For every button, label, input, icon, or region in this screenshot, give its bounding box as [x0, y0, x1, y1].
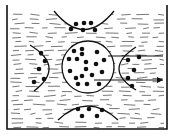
- molecule: [95, 50, 100, 55]
- molecule: [126, 58, 131, 63]
- liquid-dash: [10, 82, 21, 83]
- liquid-dash: [57, 104, 67, 105]
- liquid-dash: [119, 91, 131, 92]
- liquid-dash: [29, 41, 34, 42]
- molecule: [72, 49, 77, 54]
- liquid-dash: [140, 122, 148, 123]
- molecule: [97, 82, 102, 87]
- liquid-dash: [65, 33, 78, 34]
- liquid-dash: [116, 78, 127, 79]
- liquid-dash: [106, 104, 112, 105]
- molecule: [76, 107, 81, 112]
- molecule: [95, 114, 100, 119]
- liquid-dash: [12, 19, 18, 20]
- molecule: [94, 62, 99, 67]
- liquid-dash: [158, 95, 164, 96]
- liquid-dash: [46, 19, 57, 20]
- liquid-dash: [104, 28, 113, 29]
- liquid-dash: [137, 77, 148, 78]
- molecule: [42, 77, 47, 82]
- molecule-groups: [30, 11, 141, 120]
- molecule: [84, 60, 89, 65]
- molecule: [90, 73, 95, 78]
- liquid-dash: [125, 28, 136, 29]
- molecule: [69, 27, 74, 32]
- liquid-dash: [151, 114, 162, 115]
- surface-group-arc: [54, 11, 114, 30]
- liquid-dash: [25, 50, 34, 51]
- molecule: [130, 84, 135, 89]
- liquid-dash: [33, 104, 46, 105]
- liquid-dash: [14, 23, 24, 24]
- liquid-dash: [72, 104, 79, 105]
- liquid-dash: [53, 73, 63, 74]
- liquid-dash: [130, 118, 142, 119]
- molecule: [67, 57, 72, 62]
- liquid-dash: [11, 100, 18, 101]
- liquid-dash: [119, 118, 125, 119]
- liquid-dash: [111, 37, 119, 38]
- liquid-dash: [129, 109, 140, 110]
- liquid-dash: [159, 59, 164, 60]
- liquid-dash: [117, 113, 129, 114]
- liquid-dash: [158, 14, 164, 15]
- molecule: [87, 107, 92, 112]
- molecule: [100, 70, 105, 75]
- liquid-dash: [138, 50, 145, 51]
- liquid-dash: [54, 122, 63, 123]
- liquid-dash: [13, 33, 21, 34]
- molecule: [74, 76, 79, 81]
- liquid-dash: [126, 33, 132, 34]
- liquid-dash: [24, 109, 31, 110]
- molecule: [84, 67, 89, 72]
- liquid-dash: [140, 86, 151, 87]
- molecule: [137, 55, 142, 60]
- liquid-dash: [93, 127, 99, 128]
- liquid-dash: [60, 100, 71, 101]
- liquid-dash: [30, 14, 39, 15]
- liquid-dash: [12, 86, 19, 87]
- liquid-dash: [14, 64, 22, 65]
- liquid-dash: [106, 41, 113, 42]
- molecule: [76, 82, 81, 87]
- liquid-dash: [16, 91, 22, 92]
- liquid-dash: [29, 32, 37, 33]
- molecule: [37, 67, 42, 72]
- molecule: [82, 21, 87, 26]
- liquid-dash: [45, 114, 52, 115]
- liquid-dash: [28, 77, 37, 78]
- liquid-dash: [153, 109, 160, 110]
- liquid-dash: [55, 64, 62, 65]
- liquid-dash: [34, 46, 43, 47]
- liquid-dash: [96, 37, 106, 38]
- surface-tension-diagram: [0, 0, 174, 139]
- molecule: [81, 28, 86, 33]
- liquid-dash: [50, 23, 61, 24]
- molecule: [100, 108, 105, 113]
- liquid-dash: [121, 14, 130, 15]
- liquid-dash: [58, 50, 67, 51]
- molecule: [43, 59, 48, 64]
- liquid-dash: [144, 64, 151, 65]
- liquid-dash: [30, 19, 39, 20]
- liquid-dash: [121, 64, 128, 65]
- arrowhead-icon: [157, 77, 163, 83]
- liquid-dash: [44, 50, 54, 51]
- liquid-dash: [143, 28, 149, 29]
- molecule: [68, 69, 73, 74]
- molecule: [85, 82, 90, 87]
- liquid-dash: [30, 113, 35, 114]
- liquid-dash: [11, 55, 21, 56]
- liquid-dash: [14, 109, 20, 110]
- molecule: [80, 114, 85, 119]
- molecule: [132, 68, 137, 73]
- molecule: [75, 57, 80, 62]
- liquid-dash: [61, 95, 66, 96]
- molecule: [80, 74, 85, 79]
- liquid-dash: [135, 113, 140, 114]
- molecule: [80, 52, 85, 57]
- molecule: [74, 22, 79, 27]
- molecule: [80, 47, 85, 52]
- liquid-dash: [155, 50, 163, 51]
- molecule: [39, 51, 44, 56]
